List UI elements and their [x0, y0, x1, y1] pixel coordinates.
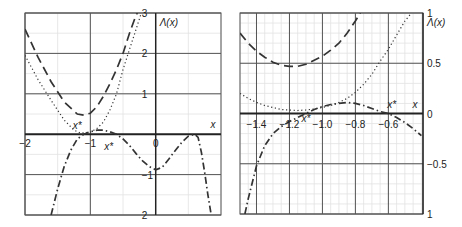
y-axis-label: Λ(x): [426, 17, 445, 28]
annotation-label: x*: [72, 120, 83, 131]
series-line-dashed: [240, 13, 360, 66]
y-axis-label: Λ(x): [159, 17, 178, 28]
x-tick-label: −1.4: [247, 119, 267, 130]
y-tick-label: −0.5: [427, 159, 447, 170]
x-tick-label: −1.2: [280, 119, 300, 130]
x-tick-label: −0.6: [379, 119, 399, 130]
left-plot: −2−10321−12xΛ(x)x*x*: [19, 8, 221, 221]
annotation-label: x*: [300, 113, 311, 124]
right-plot: −1.4−1.2−1.0−0.8−0.610.50−0.51xΛ(x)x*x*: [240, 8, 447, 220]
x-axis-label: x: [412, 99, 419, 110]
x-tick-label: 0: [153, 138, 159, 149]
annotation-label: x*: [103, 141, 114, 152]
y-tick-label: 1: [142, 89, 148, 100]
x-tick-label: −2: [19, 138, 31, 149]
series-line-dash-dot: [51, 130, 211, 215]
annotation-label: x*: [386, 99, 397, 110]
x-tick-label: −1.0: [313, 119, 333, 130]
y-tick-label: 3: [142, 8, 148, 19]
x-tick-label: −1: [85, 138, 97, 149]
chart-figure: −2−10321−12xΛ(x)x*x* −1.4−1.2−1.0−0.8−0.…: [0, 0, 462, 227]
series-line-dotted: [240, 13, 412, 111]
y-tick-label: 2: [142, 210, 148, 221]
y-tick-label: 0: [427, 109, 433, 120]
series-line-dashed: [25, 13, 137, 115]
y-tick-label: 0.5: [427, 58, 441, 69]
y-tick-label: −1: [142, 170, 154, 181]
x-tick-label: −0.8: [346, 119, 366, 130]
y-tick-label: 2: [142, 48, 148, 59]
y-tick-label: 1: [427, 209, 433, 220]
x-axis-label: x: [210, 119, 217, 130]
